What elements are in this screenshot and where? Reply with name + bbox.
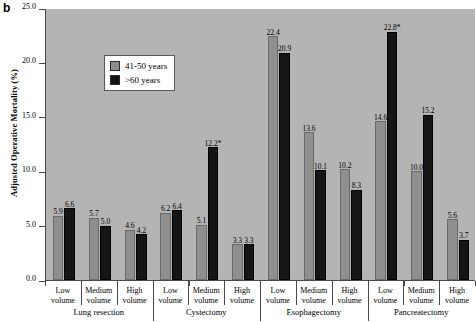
- bar-value-label: 22.4: [267, 29, 280, 37]
- bar: 3.3: [232, 244, 243, 280]
- x-axis-category-line: volume: [224, 296, 260, 306]
- y-axis-tick-label: 0.0: [26, 275, 36, 283]
- x-axis-category-label: Mediumvolume: [296, 286, 332, 305]
- bar: 22.8*: [387, 32, 398, 280]
- x-axis-category-line: Low: [260, 286, 296, 296]
- bar-value-label: 15.2: [421, 107, 434, 115]
- chart-legend: 41-50 years >60 years: [104, 55, 175, 91]
- legend-item: >60 years: [110, 73, 167, 87]
- x-axis-category-label: Lowvolume: [45, 286, 81, 305]
- y-axis-tick-label: 5.0: [26, 221, 36, 229]
- x-axis-group-label: Pancreatectomy: [368, 307, 476, 317]
- x-axis-category-line: Low: [368, 286, 404, 296]
- bar-value-label: 5.0: [101, 218, 110, 226]
- x-axis-category-line: High: [224, 286, 260, 296]
- legend-swatch-icon: [110, 75, 120, 85]
- x-axis-category-line: High: [117, 286, 153, 296]
- bar-value-label: 3.3: [244, 237, 253, 245]
- x-axis-category-label: Lowvolume: [153, 286, 189, 305]
- x-axis-category-label: Mediumvolume: [81, 286, 117, 305]
- x-axis-category-label: Highvolume: [117, 286, 153, 305]
- x-axis-category-label: Mediumvolume: [188, 286, 224, 305]
- x-axis-category-line: Medium: [296, 286, 332, 296]
- bar: 6.6: [64, 208, 75, 280]
- x-axis-category-line: Medium: [81, 286, 117, 296]
- y-axis-tick-label: 15.0: [22, 112, 36, 120]
- x-axis-category-label: Highvolume: [439, 286, 475, 305]
- x-axis-group-label: Lung resection: [45, 307, 153, 317]
- bar: 12.2*: [208, 147, 219, 280]
- y-axis-tick-label: 10.0: [22, 166, 36, 174]
- bar: 4.6: [125, 230, 136, 280]
- bar: 10.1: [315, 170, 326, 280]
- bar: 5.0: [100, 226, 111, 280]
- x-axis-category-line: Medium: [188, 286, 224, 296]
- bar-value-label: 5.9: [53, 208, 62, 216]
- bar-value-label: 6.6: [65, 201, 74, 209]
- y-axis-title: Adjusted Operative Mortality (%): [9, 33, 19, 233]
- bar: 4.2: [136, 234, 147, 280]
- x-axis-category-label: Mediumvolume: [403, 286, 439, 305]
- bar: 5.7: [89, 218, 100, 280]
- bar: 6.2: [160, 213, 171, 280]
- legend-label: 41-50 years: [125, 60, 167, 73]
- x-axis-category-line: volume: [260, 296, 296, 306]
- bar-value-label: 12.2*: [205, 140, 222, 148]
- x-axis-category-line: volume: [45, 296, 81, 306]
- bar-value-label: 10.2: [338, 162, 351, 170]
- bar: 10.2: [340, 169, 351, 280]
- x-axis-category-line: Low: [153, 286, 189, 296]
- x-axis-category-line: volume: [403, 296, 439, 306]
- x-axis-category-label: Highvolume: [332, 286, 368, 305]
- bar-value-label: 22.8*: [384, 24, 401, 32]
- figure-panel: b Adjusted Operative Mortality (%) 0.05.…: [0, 0, 476, 322]
- bar-value-label: 8.3: [352, 182, 361, 190]
- y-axis-tick-label: 25.0: [22, 3, 36, 11]
- x-axis-category-line: Low: [45, 286, 81, 296]
- bar-value-label: 4.6: [125, 222, 134, 230]
- bar-value-label: 3.3: [233, 237, 242, 245]
- bar-value-label: 5.1: [197, 217, 206, 225]
- x-axis-category-line: High: [332, 286, 368, 296]
- x-axis-category-line: volume: [332, 296, 368, 306]
- x-axis-category-line: volume: [368, 296, 404, 306]
- x-axis-category-line: High: [439, 286, 475, 296]
- bar: 15.2: [423, 115, 434, 280]
- bar: 5.9: [53, 216, 64, 280]
- bar-value-label: 10.1: [314, 163, 327, 171]
- bar: 20.9: [279, 53, 290, 280]
- bar: 3.7: [459, 240, 470, 280]
- x-axis-group-label: Cystectomy: [153, 307, 261, 317]
- legend-item: 41-50 years: [110, 59, 167, 73]
- bar-value-label: 14.6: [374, 114, 387, 122]
- bar: 22.4: [268, 36, 279, 280]
- bar: 5.1: [196, 225, 207, 280]
- bar-value-label: 6.2: [161, 205, 170, 213]
- bar-value-label: 6.4: [172, 203, 181, 211]
- bar-value-label: 5.7: [89, 210, 98, 218]
- legend-label: >60 years: [125, 74, 160, 87]
- x-axis-category-line: volume: [81, 296, 117, 306]
- bar-value-label: 13.6: [302, 125, 315, 133]
- y-axis-tick-label: 20.0: [22, 57, 36, 65]
- bar: 8.3: [351, 190, 362, 280]
- plot-area: 5.96.65.75.04.64.26.26.45.112.2*3.33.322…: [45, 9, 475, 281]
- x-axis-category-line: volume: [296, 296, 332, 306]
- x-axis-category-line: volume: [153, 296, 189, 306]
- x-axis-category-line: volume: [117, 296, 153, 306]
- x-axis-category-label: Lowvolume: [368, 286, 404, 305]
- x-axis-category-label: Highvolume: [224, 286, 260, 305]
- bar: 14.6: [375, 121, 386, 280]
- x-axis-category-line: volume: [439, 296, 475, 306]
- x-axis-group-label: Esophagectomy: [260, 307, 368, 317]
- x-axis-category-line: Medium: [403, 286, 439, 296]
- bar: 13.6: [304, 132, 315, 280]
- bar: 6.4: [172, 210, 183, 280]
- x-axis-category-line: volume: [188, 296, 224, 306]
- x-axis-category-label: Lowvolume: [260, 286, 296, 305]
- bar-value-label: 4.2: [137, 227, 146, 235]
- bar: 3.3: [244, 244, 255, 280]
- bar: 5.6: [447, 219, 458, 280]
- bar-value-label: 5.6: [448, 212, 457, 220]
- legend-swatch-icon: [110, 61, 120, 71]
